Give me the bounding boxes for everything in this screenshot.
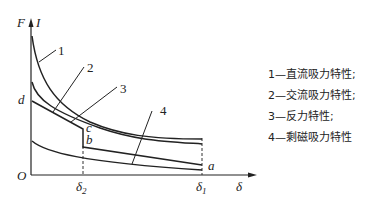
tick-delta2: δ2 — [76, 179, 87, 196]
leader-2 — [53, 67, 84, 112]
y-label-current: I — [35, 15, 41, 30]
curve-label-3: 3 — [120, 81, 127, 96]
leader-3 — [71, 87, 117, 122]
x-axis-arrow — [248, 173, 257, 178]
point-c: c — [86, 120, 92, 135]
x-label: δ — [236, 179, 243, 194]
y-axis-arrow — [29, 18, 34, 27]
curve-label-1: 1 — [58, 43, 65, 58]
origin-label: O — [17, 168, 27, 183]
legend-item-2: 2—交流吸力特性; — [268, 85, 356, 106]
curve-label-4: 4 — [160, 103, 167, 118]
tick-delta1: δ1 — [196, 179, 207, 196]
legend: 1—直流吸力特性; 2—交流吸力特性; 3—反力特性; 4—剩磁吸力特性 — [268, 64, 356, 148]
legend-item-4: 4—剩磁吸力特性 — [268, 127, 356, 148]
curve-2-ac-pull — [32, 82, 202, 144]
leader-1 — [39, 50, 56, 62]
legend-item-1: 1—直流吸力特性; — [268, 64, 356, 85]
curve-label-2: 2 — [87, 60, 94, 75]
y-label-force: F — [16, 15, 26, 30]
curve-4-residual-pull — [32, 141, 202, 170]
point-d: d — [18, 92, 25, 107]
point-a: a — [208, 158, 215, 173]
legend-item-3: 3—反力特性; — [268, 106, 356, 127]
